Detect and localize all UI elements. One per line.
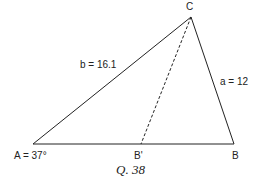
side-b-label: b = 16.1 [80, 60, 116, 70]
caption: Q. 38 [116, 163, 145, 176]
vertex-b-label: B [232, 151, 239, 161]
side-b [33, 17, 191, 144]
vertex-a-label: A = 37° [14, 151, 47, 161]
side-a-label: a = 12 [220, 77, 248, 87]
vertex-b-prime-label: B' [134, 151, 143, 161]
vertex-c-label: C [186, 2, 193, 12]
dashed-side-a-alt [141, 17, 191, 144]
